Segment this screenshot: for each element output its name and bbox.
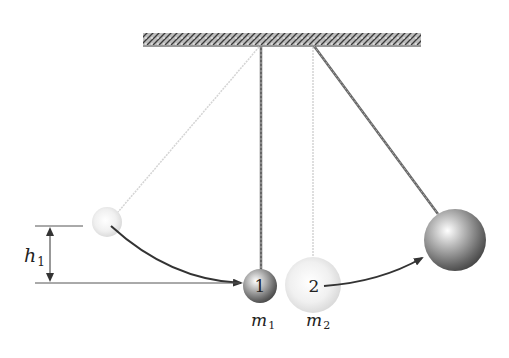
pendulum-diagram: 1 2 h1 m1 m2 — [0, 0, 509, 358]
ghost-string-1 — [118, 47, 259, 212]
ceiling-support — [143, 33, 421, 46]
ball-2-number: 2 — [309, 276, 320, 296]
height-dimension — [35, 226, 240, 283]
motion-arrow-1 — [111, 226, 241, 283]
ball-2 — [424, 209, 486, 271]
ball-1-number: 1 — [255, 276, 266, 296]
height-label: h1 — [24, 244, 45, 269]
mass-2-label: m2 — [306, 310, 330, 332]
mass-1-label: m1 — [251, 310, 275, 332]
